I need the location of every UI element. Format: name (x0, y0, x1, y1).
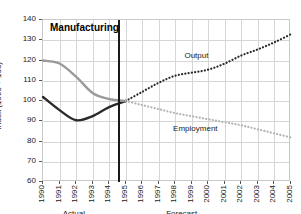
x-tick-1999: 1999 (187, 185, 195, 203)
forecast-period-label: Forecast (166, 209, 197, 214)
x-tick-1997: 1997 (154, 185, 162, 203)
y-tick-100: 100 (0, 96, 36, 104)
x-tick-2002: 2002 (236, 185, 244, 203)
forecast-divider-line (118, 20, 120, 182)
y-tick-70: 70 (0, 157, 36, 165)
x-tick-2003: 2003 (253, 185, 261, 203)
y-tick-60: 60 (0, 177, 36, 185)
x-tick-1995: 1995 (121, 185, 129, 203)
x-tick-2000: 2000 (203, 185, 211, 203)
series-output-forecast (126, 34, 291, 101)
series-layer (43, 20, 291, 182)
x-tick-1990: 1990 (38, 185, 46, 203)
x-tick-1993: 1993 (88, 185, 96, 203)
chart-container: Index (1995 = 100) 607080901001101201301… (0, 0, 301, 214)
y-tick-80: 80 (0, 137, 36, 145)
output-series-label: Output (184, 51, 208, 60)
y-tick-110: 110 (0, 76, 36, 84)
x-tick-1991: 1991 (55, 185, 63, 203)
y-tick-130: 130 (0, 35, 36, 43)
x-tick-1996: 1996 (137, 185, 145, 203)
x-tick-2005: 2005 (286, 185, 294, 203)
plot-area: Output Employment (42, 19, 290, 181)
x-tick-2004: 2004 (269, 185, 277, 203)
chart-title: Manufacturing (50, 22, 119, 33)
y-tick-90: 90 (0, 116, 36, 124)
x-tick-2001: 2001 (220, 185, 228, 203)
x-tick-1994: 1994 (104, 185, 112, 203)
actual-period-label: Actual (63, 209, 85, 214)
series-employment-actual (43, 61, 126, 102)
y-tick-140: 140 (0, 15, 36, 23)
x-tick-1992: 1992 (71, 185, 79, 203)
employment-series-label: Employment (173, 124, 217, 133)
x-tick-1998: 1998 (170, 185, 178, 203)
y-tick-120: 120 (0, 56, 36, 64)
